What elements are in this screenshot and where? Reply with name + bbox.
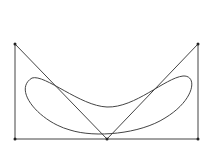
point-top-right	[197, 43, 200, 46]
closed-curve	[25, 76, 192, 134]
point-bottom-right	[197, 138, 200, 141]
diagram-canvas	[0, 0, 212, 146]
point-bottom-mid	[106, 138, 109, 141]
point-bottom-left	[14, 138, 17, 141]
left-diagonal	[15, 44, 107, 139]
bezier-diagram	[0, 0, 212, 146]
point-top-left	[14, 43, 17, 46]
